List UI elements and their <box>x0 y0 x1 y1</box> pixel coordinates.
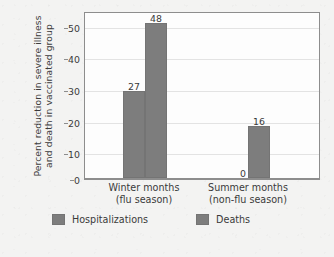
bar-value-summer-hospitalizations: 0 <box>240 168 246 180</box>
bar-summer-deaths <box>248 126 270 178</box>
chart-legend: Hospitalizations Deaths <box>52 214 298 225</box>
x-category-label-winter: Winter months (flu season) <box>109 182 180 206</box>
bar-value-winter-hospitalizations: 27 <box>128 81 140 93</box>
bar-value-winter-deaths: 48 <box>150 13 162 25</box>
legend-label-deaths: Deaths <box>216 214 250 225</box>
x-category-label-summer: Summer months (non-flu season) <box>208 182 288 206</box>
y-axis-title: Percent reduction in severe illness and … <box>22 12 64 180</box>
legend-label-hospitalizations: Hospitalizations <box>72 214 148 225</box>
legend-swatch-icon-hospitalizations <box>52 214 65 225</box>
y-tick-label-40: 40 <box>68 54 85 65</box>
bar-chart-figure: Percent reduction in severe illness and … <box>0 0 334 257</box>
gridline-30 <box>85 91 319 92</box>
gridline-20 <box>85 123 319 124</box>
bar-winter-hospitalizations <box>123 91 145 178</box>
gridline-40 <box>85 59 319 60</box>
x-category-summer-line-2: (non-flu season) <box>208 194 288 206</box>
y-tick-label-0: 0 <box>74 175 85 186</box>
bar-winter-deaths <box>145 23 167 178</box>
x-category-winter-line-1: Winter months <box>109 182 180 194</box>
y-tick-label-20: 20 <box>68 118 85 129</box>
y-tick-label-30: 30 <box>68 86 85 97</box>
y-axis-title-line-2: and death in vaccinated group <box>43 15 54 176</box>
y-tick-label-10: 10 <box>68 149 85 160</box>
legend-item-hospitalizations: Hospitalizations <box>52 214 148 225</box>
x-category-summer-line-1: Summer months <box>208 182 288 194</box>
x-category-winter-line-2: (flu season) <box>109 194 180 206</box>
gridline-50 <box>85 28 319 29</box>
legend-item-deaths: Deaths <box>196 214 250 225</box>
bar-value-summer-deaths: 16 <box>253 116 265 128</box>
y-tick-label-50: 50 <box>68 23 85 34</box>
legend-swatch-icon-deaths <box>196 214 209 225</box>
plot-area: 50 40 30 20 10 0 27 48 0 16 <box>84 12 320 180</box>
gridline-10 <box>85 154 319 155</box>
y-axis-title-line-1: Percent reduction in severe illness <box>32 15 43 176</box>
x-axis-line <box>85 178 319 179</box>
